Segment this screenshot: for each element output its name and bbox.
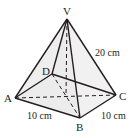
measure-slant-edge: 20 cm bbox=[95, 47, 120, 58]
vertex-label-d: D bbox=[42, 65, 50, 77]
vertex-label-c: C bbox=[119, 90, 126, 102]
measure-base-ab: 10 cm bbox=[27, 110, 52, 121]
vertex-label-b: B bbox=[76, 121, 83, 133]
vertex-label-v: V bbox=[63, 5, 71, 17]
vertex-label-a: A bbox=[4, 92, 12, 104]
measure-base-bc: 10 cm bbox=[101, 110, 126, 121]
pyramid-diagram: V D A B C 20 cm 10 cm 10 cm bbox=[0, 0, 140, 138]
